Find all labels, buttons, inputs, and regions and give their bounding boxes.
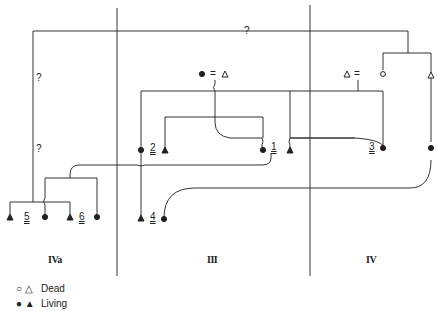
individual-5: 5 [24, 212, 30, 222]
dead-male-icon [428, 72, 434, 78]
dead-male-icon [344, 71, 350, 77]
individual-3: 3 [369, 142, 375, 152]
individual-2: 2 [150, 143, 156, 153]
dead-symbols-icon: ○ △ [16, 283, 38, 294]
living-symbols-icon: ● ▲ [16, 298, 38, 309]
uncertain-mark: ? [244, 25, 250, 36]
living-male-icon [287, 147, 293, 153]
living-female-icon [260, 147, 265, 152]
column-label-iii: III [207, 254, 217, 265]
individual-6: 6 [79, 212, 85, 222]
living-female-icon [94, 214, 99, 219]
individual-1: 1 [271, 142, 277, 152]
living-female-icon [161, 216, 166, 221]
living-female-icon [199, 71, 204, 76]
living-male-icon [67, 214, 73, 220]
legend-dead: ○ △ Dead [16, 283, 65, 294]
column-label-iv: IV [366, 254, 376, 265]
uncertain-mark: ? [36, 143, 42, 154]
legend-dead-label: Dead [41, 283, 65, 294]
couple-sign: = [354, 69, 360, 79]
living-female-icon [42, 214, 47, 219]
individual-4: 4 [150, 212, 156, 222]
living-female-icon [428, 145, 433, 150]
dead-female-icon [381, 72, 386, 77]
column-label-iva: IVa [48, 254, 62, 265]
couple-sign: = [210, 69, 216, 79]
living-male-icon [7, 214, 13, 220]
legend-living: ● ▲ Living [16, 298, 67, 309]
living-male-icon [138, 215, 144, 221]
living-male-icon [162, 147, 168, 153]
living-female-icon [138, 147, 143, 152]
living-female-icon [380, 145, 385, 150]
legend-living-label: Living [41, 298, 67, 309]
dead-male-icon [222, 71, 228, 77]
uncertain-mark: ? [36, 72, 42, 83]
